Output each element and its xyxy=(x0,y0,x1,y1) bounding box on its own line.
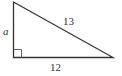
hypotenuse-label: 13 xyxy=(63,16,74,27)
triangle-figure xyxy=(0,0,122,76)
right-angle-marker xyxy=(14,50,22,58)
right-triangle xyxy=(14,2,114,58)
base-label: 12 xyxy=(50,62,61,73)
leg-label-a: a xyxy=(3,26,9,37)
